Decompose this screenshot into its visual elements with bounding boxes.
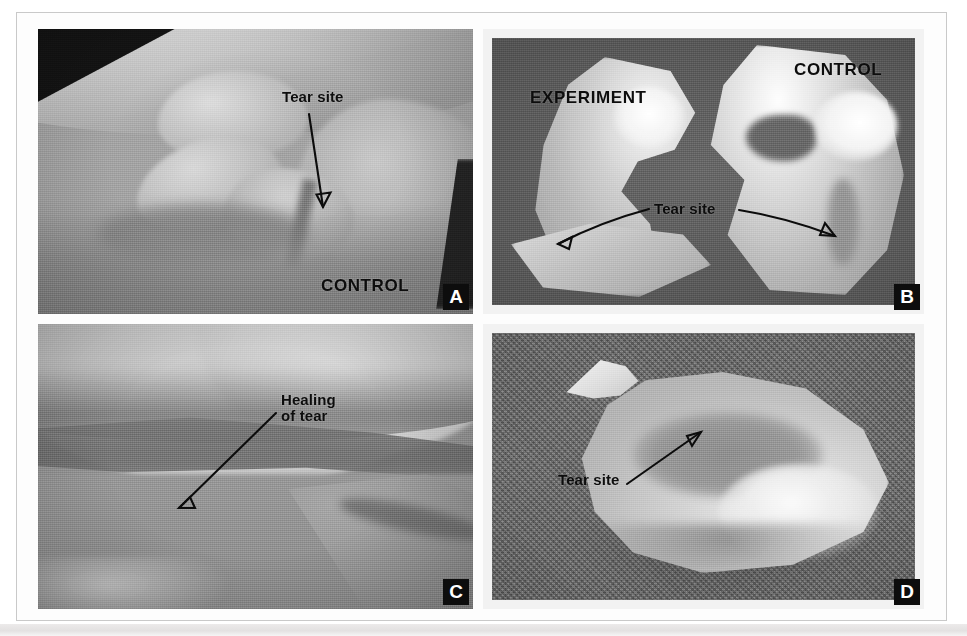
panel-d-tear-site-label: Tear site	[558, 472, 620, 488]
panel-a[interactable]: Tear site CONTROL A	[38, 29, 473, 314]
panel-a-badge: A	[443, 284, 469, 310]
panel-a-tear-site-label: Tear site	[282, 89, 344, 105]
panel-d[interactable]: Tear site D	[483, 324, 924, 609]
panel-c-healing-label: Healingof tear	[281, 392, 336, 424]
panel-c-badge: C	[443, 579, 469, 605]
panel-a-control-label: CONTROL	[321, 277, 409, 295]
panel-b-badge: B	[894, 284, 920, 310]
healing-line-2: of tear	[281, 407, 328, 424]
panel-b-experiment-label: EXPERIMENT	[530, 89, 647, 107]
panel-b[interactable]: EXPERIMENT CONTROL Tear site B	[483, 29, 924, 314]
tissue-bottom-highlight	[38, 557, 228, 609]
panel-grid: Tear site CONTROL A EXPERIMENT	[38, 29, 924, 609]
figure-root: Tear site CONTROL A EXPERIMENT	[0, 0, 967, 636]
panel-c-photo	[38, 324, 473, 609]
panel-d-inner-frame	[483, 324, 924, 609]
panel-c[interactable]: Healingof tear C	[38, 324, 473, 609]
healing-line-1: Healing	[281, 391, 336, 408]
tissue-lower-field	[38, 204, 473, 314]
panel-d-badge: D	[894, 579, 920, 605]
page-bottom-band	[0, 624, 967, 636]
panel-b-control-label: CONTROL	[794, 61, 882, 79]
panel-b-tear-site-label: Tear site	[654, 201, 716, 217]
panel-a-photo	[38, 29, 473, 314]
